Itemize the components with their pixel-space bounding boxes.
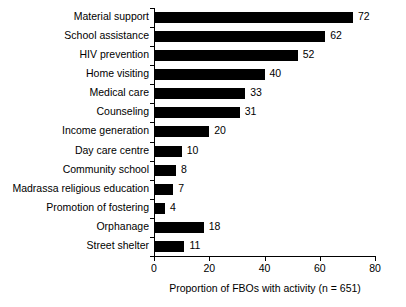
bar-value-label: 62: [330, 29, 342, 42]
category-label: Home visiting: [0, 65, 149, 84]
bar-row: 10: [154, 142, 375, 161]
category-label-text: Day care centre: [0, 142, 149, 157]
x-axis-tick-label: 60: [305, 262, 335, 275]
category-label: Street shelter: [0, 237, 149, 256]
plot-area: 72625240333120108741811: [154, 8, 375, 256]
bar: [154, 165, 176, 176]
category-label: HIV prevention: [0, 46, 149, 65]
category-label-text: Counseling: [0, 103, 149, 118]
y-axis-tick: [150, 218, 154, 219]
y-axis-tick: [150, 65, 154, 66]
x-axis-tick-label: 40: [250, 262, 280, 275]
x-axis-tick-label: 80: [360, 262, 390, 275]
y-axis-tick: [150, 122, 154, 123]
bar-row: 18: [154, 218, 375, 237]
y-axis-tick: [150, 8, 154, 9]
category-label: School assistance: [0, 27, 149, 46]
y-axis-tick: [150, 46, 154, 47]
x-axis-title: Proportion of FBOs with activity (n = 65…: [154, 282, 376, 294]
bar: [154, 146, 182, 157]
bar: [154, 184, 173, 195]
category-label-text: Street shelter: [0, 237, 149, 252]
category-label: Community school: [0, 161, 149, 180]
bar-row: 7: [154, 180, 375, 199]
category-label-text: Income generation: [0, 122, 149, 137]
bar-value-label: 20: [214, 124, 226, 137]
bar-value-label: 31: [245, 105, 257, 118]
y-axis-tick: [150, 199, 154, 200]
bar-row: 8: [154, 161, 375, 180]
category-label-text: Promotion of fostering: [0, 199, 149, 214]
category-label: Medical care: [0, 84, 149, 103]
y-axis-tick: [150, 237, 154, 238]
bar-row: 20: [154, 122, 375, 141]
bar: [154, 50, 298, 61]
bar-value-label: 7: [178, 182, 184, 195]
category-label-text: Material support: [0, 8, 149, 23]
category-label-text: Community school: [0, 161, 149, 176]
bar-value-label: 40: [270, 67, 282, 80]
bar-value-label: 8: [181, 163, 187, 176]
bar: [154, 12, 353, 23]
x-axis-tick-label: 0: [139, 262, 169, 275]
category-axis-labels: Material supportSchool assistanceHIV pre…: [0, 8, 149, 256]
bar: [154, 222, 204, 233]
bar-row: 4: [154, 199, 375, 218]
bar-value-label: 11: [189, 239, 200, 252]
category-label: Madrassa religious education: [0, 180, 149, 199]
bar: [154, 107, 240, 118]
y-axis-tick: [150, 84, 154, 85]
bar: [154, 241, 184, 252]
category-label: Material support: [0, 8, 149, 27]
category-label: Counseling: [0, 103, 149, 122]
x-axis-tick-label: 20: [194, 262, 224, 275]
bar-row: 11: [154, 237, 375, 256]
bar-value-label: 72: [358, 10, 370, 23]
x-axis-tick: [320, 257, 321, 261]
bar-value-label: 4: [170, 201, 176, 214]
x-axis-tick: [209, 257, 210, 261]
y-axis-tick: [150, 142, 154, 143]
bar: [154, 126, 209, 137]
y-axis-tick: [150, 103, 154, 104]
x-axis-tick: [375, 257, 376, 261]
y-axis-tick: [150, 161, 154, 162]
category-label-text: Madrassa religious education: [0, 180, 149, 195]
y-axis-tick: [150, 180, 154, 181]
category-label-text: School assistance: [0, 27, 149, 42]
category-label: Promotion of fostering: [0, 199, 149, 218]
x-axis-tick: [154, 257, 155, 261]
bar-value-label: 10: [187, 144, 199, 157]
bar-row: 40: [154, 65, 375, 84]
bar: [154, 31, 325, 42]
bar-value-label: 52: [303, 48, 315, 61]
bar-row: 62: [154, 27, 375, 46]
bar: [154, 88, 245, 99]
bar-value-label: 18: [209, 220, 221, 233]
bar-row: 33: [154, 84, 375, 103]
bar-row: 52: [154, 46, 375, 65]
category-label-text: Orphanage: [0, 218, 149, 233]
bar: [154, 69, 265, 80]
bar-chart-figure: Material supportSchool assistanceHIV pre…: [0, 0, 406, 307]
bar: [154, 203, 165, 214]
category-label-text: Medical care: [0, 84, 149, 99]
y-axis-tick: [150, 27, 154, 28]
category-label-text: Home visiting: [0, 65, 149, 80]
x-axis-tick: [265, 257, 266, 261]
category-label: Day care centre: [0, 142, 149, 161]
category-label: Orphanage: [0, 218, 149, 237]
category-label-text: HIV prevention: [0, 46, 149, 61]
category-label: Income generation: [0, 122, 149, 141]
bar-row: 72: [154, 8, 375, 27]
bar-value-label: 33: [250, 86, 262, 99]
bar-row: 31: [154, 103, 375, 122]
